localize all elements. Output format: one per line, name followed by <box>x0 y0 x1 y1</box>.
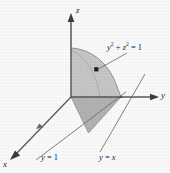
cylindrical-surface-fill <box>71 48 121 97</box>
z-axis-arrowhead <box>68 13 75 22</box>
figure-canvas <box>0 0 170 173</box>
eq-equals: = <box>129 42 138 52</box>
x-axis-label: x <box>3 160 7 169</box>
equation-pointer-dot <box>94 67 98 71</box>
equation-leader-line <box>99 53 128 69</box>
eq-plus: + <box>114 42 123 52</box>
y-equals-1-intersection-point <box>120 96 122 98</box>
x-axis-line <box>16 97 71 154</box>
label-y-equals-1: y = 1 <box>41 153 58 162</box>
yx-value: x <box>112 152 116 162</box>
eq-value: 1 <box>138 42 142 52</box>
surface-equation-label: y2 + z2 = 1 <box>107 43 142 52</box>
y1-equals: = <box>45 152 54 162</box>
z-axis-label: z <box>76 6 80 15</box>
y-axis-label: y <box>161 91 165 100</box>
y-axis-arrowhead <box>150 94 159 100</box>
math-figure-3d-region: z y x y2 + z2 = 1 y = 1 y = x <box>0 0 170 173</box>
yx-equals: = <box>103 152 112 162</box>
label-y-equals-x: y = x <box>99 153 116 162</box>
y1-value: 1 <box>54 152 58 162</box>
